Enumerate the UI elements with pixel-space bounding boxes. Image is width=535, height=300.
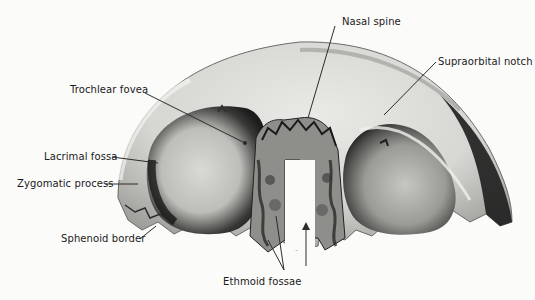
label-ethmoid-fossae: Ethmoid fossae [223,276,301,287]
anatomy-figure: Nasal spine Supraorbital notch Trochlear… [0,0,535,300]
label-sphenoid-border: Sphenoid border [61,233,145,244]
ethmoid-notch [250,118,345,253]
label-nasal-spine: Nasal spine [342,16,401,27]
label-lacrimal-fossa: Lacrimal fossa [44,151,118,162]
label-supraorbital-notch: Supraorbital notch [438,56,533,67]
ethmoid-notch-opening [285,160,315,250]
label-trochlear-fovea: Trochlear fovea [70,84,148,95]
trochlear-fovea-pointer [243,141,247,145]
frontal-bone-illustration [0,0,535,300]
label-zygomatic-process: Zygomatic process [17,178,114,189]
